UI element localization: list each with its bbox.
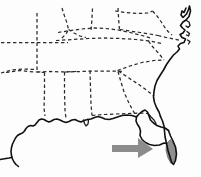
southeast-us-map-figure bbox=[0, 0, 201, 177]
map-canvas bbox=[0, 0, 201, 177]
